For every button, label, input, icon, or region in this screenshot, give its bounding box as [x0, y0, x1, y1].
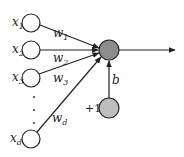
weight-label-w3: w3 [53, 71, 68, 87]
edge-xd [37, 57, 101, 132]
weight-label-wd: wd [52, 111, 67, 127]
bias-node [99, 98, 119, 118]
weight-label-w2: w2 [53, 51, 68, 67]
edge-x1 [40, 25, 99, 48]
input-node-x1 [22, 14, 40, 32]
ellipsis-dot [33, 109, 35, 111]
perceptron-diagram: x1 x2 x3 xd w1 w2 w3 wd b +1 [0, 0, 184, 157]
input-node-x3 [22, 69, 40, 87]
input-label-xd: xd [10, 131, 22, 147]
edge-x3 [39, 53, 99, 74]
sum-node [99, 40, 119, 60]
ellipsis-dot [33, 96, 35, 98]
input-label-x1: x1 [12, 15, 24, 31]
input-node-xd [22, 130, 40, 148]
bias-label: b [112, 73, 120, 87]
input-label-x3: x3 [12, 70, 24, 86]
input-label-x2: x2 [12, 42, 24, 58]
input-node-x2 [22, 41, 40, 59]
ellipsis-dot [33, 122, 35, 124]
weight-label-w1: w1 [53, 26, 68, 42]
bias-input-label: +1 [85, 102, 101, 115]
